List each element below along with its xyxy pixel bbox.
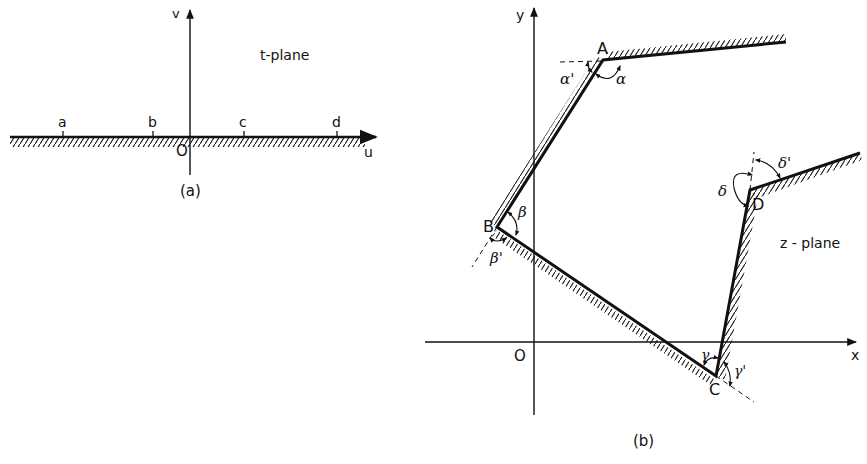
- angle-label-beta: β: [517, 203, 527, 221]
- angle-label-delta-prime: δ': [778, 154, 791, 172]
- vertex-label-a: A: [597, 39, 608, 58]
- panel-a-t-plane: a b c d O u v t-plane (a): [10, 6, 376, 200]
- angle-label-beta-prime: β': [489, 249, 503, 267]
- x-axis-label: x: [851, 347, 859, 363]
- v-axis-label: v: [172, 6, 180, 21]
- y-axis-label: y: [516, 7, 524, 23]
- origin-label-a: O: [176, 142, 188, 160]
- angle-arc-beta: [508, 212, 517, 235]
- origin-label-b: O: [514, 347, 526, 365]
- vertex-label-d: D: [752, 195, 764, 214]
- point-label-b: b: [148, 114, 157, 130]
- dashed-extension-d: [750, 152, 754, 190]
- z-plane-label: z - plane: [780, 235, 840, 251]
- vertex-label-c: C: [709, 380, 720, 399]
- point-label-d: d: [332, 114, 341, 130]
- t-plane-label: t-plane: [260, 47, 309, 63]
- panel-b-z-plane: A B C D α α' β β' γ γ' δ δ' x y O z - pl…: [425, 7, 862, 450]
- angle-label-alpha: α: [616, 70, 626, 88]
- dashed-extension-c: [716, 376, 754, 402]
- hatch-edge-b-a: [490, 56, 604, 227]
- angle-label-gamma-prime: γ': [734, 363, 746, 379]
- point-label-a: a: [58, 114, 67, 130]
- caption-b: (b): [633, 432, 654, 450]
- angle-label-alpha-prime: α': [560, 70, 574, 88]
- angle-label-gamma: γ: [701, 347, 710, 363]
- polygon-boundary: [497, 42, 860, 376]
- angle-arc-delta-prime: [756, 160, 780, 178]
- vertex-label-b: B: [483, 217, 494, 236]
- angle-label-delta: δ: [718, 182, 727, 200]
- caption-a: (a): [180, 182, 201, 200]
- diagram-canvas: a b c d O u v t-plane (a): [0, 0, 867, 464]
- point-label-c: c: [239, 114, 247, 130]
- u-axis-label: u: [364, 144, 373, 160]
- hatch-edge-c-d: [717, 190, 758, 380]
